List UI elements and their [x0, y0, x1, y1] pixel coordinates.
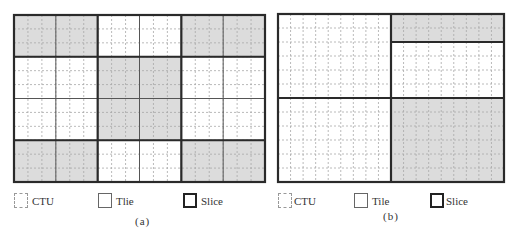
slice-swatch-icon — [430, 193, 444, 208]
legend-tile-b: Tile — [354, 193, 389, 208]
legend-ctu-label: CTU — [294, 195, 316, 207]
panel-b: CTU Tile Slice (b) — [0, 0, 518, 239]
legend-tile-label: Tile — [372, 195, 389, 207]
caption-b: (b) — [383, 210, 399, 222]
ctu-swatch-icon — [278, 193, 292, 208]
legend-slice-b: Slice — [430, 193, 468, 208]
tile-swatch-icon — [354, 193, 368, 208]
legend-slice-label: Slice — [446, 195, 468, 207]
legend-ctu-b: CTU — [278, 193, 316, 208]
slice-tile-grid-b — [0, 0, 518, 190]
